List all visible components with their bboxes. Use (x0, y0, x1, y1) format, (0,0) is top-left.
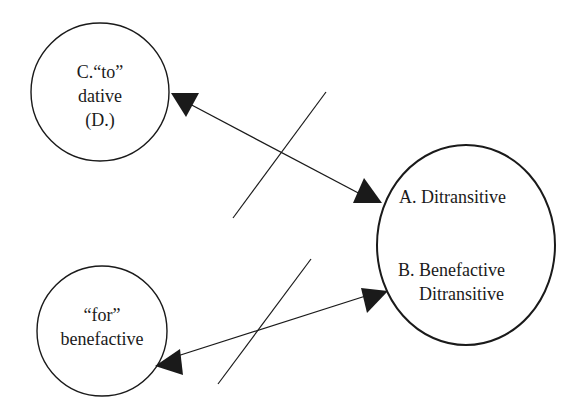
node-ditransitive-label-a: A. Ditransitive (399, 186, 549, 208)
node-for-benefactive-label: “for” benefactive (42, 303, 162, 351)
node-benefactive-b-line-2: Ditransitive (398, 282, 548, 306)
crossed-out-slash-1 (233, 92, 326, 218)
node-to-dative-label: C.“to” dative (D.) (50, 60, 150, 132)
node-ditransitive-ellipse (377, 145, 555, 345)
crossed-out-slash-2 (218, 259, 311, 384)
node-to-dative-line-2: dative (50, 84, 150, 108)
node-for-line-1: “for” (42, 303, 162, 327)
node-ditransitive-a: A. Ditransitive (399, 186, 549, 208)
node-to-dative-line-3: (D.) (50, 108, 150, 132)
node-to-dative-line-1: C.“to” (50, 60, 150, 84)
node-ditransitive-label-b: B. Benefactive Ditransitive (398, 258, 548, 306)
edge-for-benefactive-ditransitive (168, 293, 375, 359)
arrowhead-ditransitive-a (353, 178, 382, 203)
node-for-line-2: benefactive (42, 327, 162, 351)
arrowhead-to-dative (171, 93, 199, 117)
node-benefactive-b: B. Benefactive (398, 258, 548, 282)
arrowhead-ditransitive-b (361, 288, 388, 313)
edge-to-dative-ditransitive (186, 102, 364, 196)
